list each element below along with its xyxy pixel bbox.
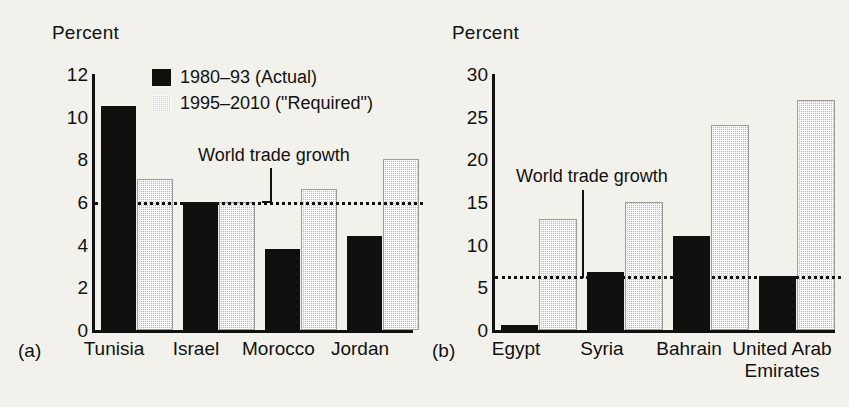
panel-a-ytick-6: 6 — [77, 193, 88, 212]
bar-tunisia-actual — [101, 106, 136, 330]
bar-egypt-required — [539, 219, 577, 330]
panel-b-annotation-leader — [582, 190, 584, 278]
panel-a: Percent (a) 1980–93 (Actual) 1995–2010 (… — [0, 0, 424, 407]
xlabel-bahrain: Bahrain — [646, 338, 732, 360]
panel-a-ytick-2: 2 — [77, 278, 88, 297]
panel-a-ytick-10: 10 — [67, 107, 88, 126]
bar-group-bahrain — [673, 74, 749, 330]
panel-b-ytick-15: 15 — [467, 193, 488, 212]
panel-b-ytick-20: 20 — [467, 150, 488, 169]
panel-b-ytick-0: 0 — [477, 321, 488, 340]
panel-a-annotation-leader — [270, 168, 272, 202]
figure: Percent (a) 1980–93 (Actual) 1995–2010 (… — [0, 0, 849, 407]
xlabel-syria: Syria — [564, 338, 640, 360]
panel-b-ytick-30: 30 — [467, 65, 488, 84]
panel-a-annotation-label: World trade growth — [198, 145, 350, 166]
xlabel-tunisia: Tunisia — [78, 338, 150, 360]
bar-uae-actual — [759, 276, 796, 330]
panel-a-ytick-8: 8 — [77, 150, 88, 169]
panel-b-tag: (b) — [432, 340, 455, 362]
bar-bahrain-actual — [673, 236, 710, 330]
xlabel-israel: Israel — [160, 338, 232, 360]
bar-jordan-actual — [347, 236, 382, 330]
bar-israel-required — [219, 202, 255, 330]
panel-b-ytick-5: 5 — [477, 278, 488, 297]
bar-egypt-actual — [501, 325, 538, 330]
xlabel-morocco: Morocco — [242, 338, 314, 360]
panel-b-reference-line — [495, 276, 841, 279]
panel-b-annotation-label: World trade growth — [516, 166, 668, 187]
bar-syria-required — [625, 202, 663, 330]
panel-a-reference-line — [95, 202, 423, 205]
bar-syria-actual — [587, 272, 624, 330]
panel-a-axis-title: Percent — [52, 22, 119, 44]
panel-a-ytick-12: 12 — [67, 65, 88, 84]
panel-b-plot-area: 0 5 10 15 20 25 30 — [492, 74, 835, 333]
panel-a-tag: (a) — [18, 340, 41, 362]
panel-a-annotation-leader-foot — [262, 201, 271, 203]
bar-group-uae — [759, 74, 835, 330]
panel-b: Percent (b) 0 5 10 15 20 25 30 — [424, 0, 849, 407]
bar-morocco-required — [301, 189, 337, 330]
bar-uae-required — [797, 100, 835, 330]
bar-group-egypt — [501, 74, 577, 330]
panel-b-ytick-10: 10 — [467, 235, 488, 254]
xlabel-united-arab-emirates: United Arab Emirates — [730, 338, 834, 382]
panel-b-axis-title: Percent — [452, 22, 519, 44]
xlabel-jordan: Jordan — [324, 338, 396, 360]
bar-morocco-actual — [265, 249, 300, 330]
panel-a-ytick-4: 4 — [77, 235, 88, 254]
panel-b-ytick-25: 25 — [467, 107, 488, 126]
bar-group-syria — [587, 74, 663, 330]
bar-israel-actual — [183, 202, 218, 330]
xlabel-egypt: Egypt — [478, 338, 554, 360]
panel-b-bars — [495, 74, 835, 330]
panel-a-plot-area: 0 2 4 6 8 10 12 — [92, 74, 413, 333]
bar-bahrain-required — [711, 125, 749, 330]
panel-a-ytick-0: 0 — [77, 321, 88, 340]
bar-jordan-required — [383, 159, 419, 330]
